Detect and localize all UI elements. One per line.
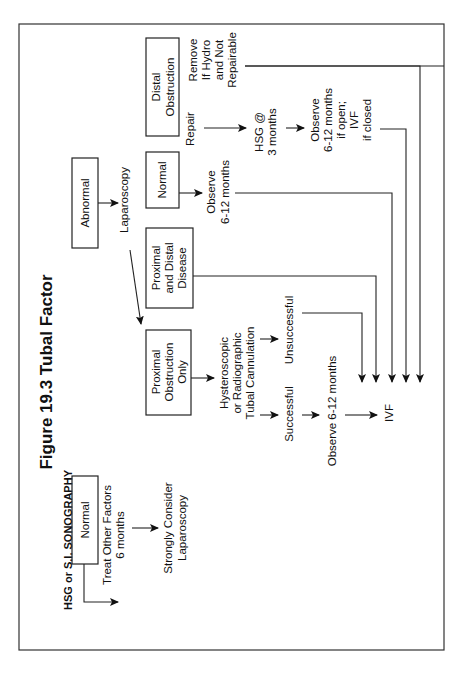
node-observe-open: Observe 6-12 months if open; IVF if clos…: [309, 88, 373, 152]
node-observe-success: Observe 6-12 months: [326, 355, 338, 466]
svg-text:Proximal: Proximal: [150, 350, 162, 395]
svg-text:if closed: if closed: [361, 99, 373, 141]
svg-text:Treat Other Factors: Treat Other Factors: [101, 485, 113, 585]
svg-text:6-12 months: 6-12 months: [219, 160, 231, 224]
node-lap-normal: Normal: [156, 161, 168, 198]
node-hsg-3mo: HSG @ 3 months: [253, 108, 278, 156]
node-remove: Remove If Hydro and Not Repairable: [187, 32, 238, 88]
arrow-laparoscopy-proximal: [130, 250, 141, 324]
svg-text:Proximal: Proximal: [150, 246, 162, 291]
svg-text:Observe: Observe: [309, 98, 321, 141]
svg-text:Repairable: Repairable: [226, 32, 238, 88]
svg-text:6-12 months: 6-12 months: [322, 88, 334, 152]
node-cannulation: Hysteroscopic or Radiographic Tubal Cann…: [218, 327, 256, 420]
arrow-observe-open-ivf: [380, 129, 406, 382]
node-abnormal: Abnormal: [79, 178, 91, 227]
svg-text:HSG @: HSG @: [253, 112, 265, 152]
svg-text:Obstruction: Obstruction: [163, 343, 175, 402]
svg-text:6 months: 6 months: [114, 511, 126, 559]
svg-text:3 months: 3 months: [266, 108, 278, 156]
svg-text:Obstruction: Obstruction: [164, 58, 176, 117]
svg-text:Disease: Disease: [176, 247, 188, 289]
node-observe-normal: Observe 6-12 months: [205, 160, 231, 224]
node-strongly-consider: Strongly Consider Laparoscopy: [162, 482, 188, 574]
node-proximal-distal: Proximal and Distal Disease: [150, 242, 188, 293]
svg-text:Hysteroscopic: Hysteroscopic: [218, 337, 230, 409]
svg-text:Remove: Remove: [187, 39, 199, 82]
node-proximal-only: Proximal Obstruction Only: [150, 343, 188, 402]
arrow-observe-normal-ivf: [235, 193, 392, 382]
svg-text:IVF: IVF: [348, 111, 360, 129]
svg-text:Strongly Consider: Strongly Consider: [162, 482, 174, 574]
svg-text:if open;: if open;: [335, 101, 347, 139]
svg-text:Tubal Cannulation: Tubal Cannulation: [244, 327, 256, 420]
node-treat-other: Treat Other Factors 6 months: [101, 485, 126, 585]
svg-text:and Distal: and Distal: [163, 242, 175, 293]
svg-text:Laparoscopy: Laparoscopy: [176, 495, 188, 561]
tubal-factor-flowchart: Figure 19.3 Tubal Factor HSG or S.I. SON…: [0, 0, 462, 673]
node-repair: Repair: [184, 112, 196, 146]
node-ivf: IVF: [383, 404, 395, 422]
svg-text:Distal: Distal: [150, 73, 162, 102]
node-distal-obstruction: Distal Obstruction: [150, 58, 176, 117]
svg-text:If Hydro: If Hydro: [200, 40, 212, 80]
figure-title: Figure 19.3 Tubal Factor: [37, 274, 56, 470]
node-unsuccessful: Unsuccessful: [283, 296, 295, 364]
svg-text:Observe: Observe: [205, 170, 217, 213]
node-successful: Successful: [283, 386, 295, 442]
node-normal: Normal: [79, 501, 91, 538]
svg-text:Only: Only: [176, 360, 188, 384]
node-laparoscopy: Laparoscopy: [118, 167, 130, 233]
svg-text:or Radiographic: or Radiographic: [231, 332, 243, 413]
svg-text:and Not: and Not: [213, 39, 225, 80]
